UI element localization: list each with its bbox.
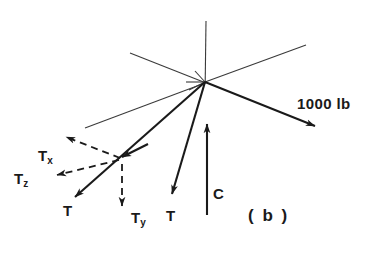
component-tz-subscript: z bbox=[23, 178, 28, 189]
axis-upper-right-line bbox=[205, 45, 306, 82]
component-tz-base: T bbox=[14, 170, 23, 187]
tension-middle-vector bbox=[172, 82, 205, 194]
tension-left-label: T bbox=[63, 203, 72, 218]
force-vectors bbox=[75, 82, 315, 215]
component-tx-vector bbox=[66, 137, 120, 158]
figure-container: 1000 lb Tx Tz T Ty T C ( b ) bbox=[0, 0, 379, 260]
axis-upper-left-line bbox=[130, 53, 206, 83]
vertical-axis-up-line bbox=[205, 21, 206, 83]
component-ty-subscript: y bbox=[140, 217, 146, 228]
component-ty-label: Ty bbox=[131, 210, 146, 225]
tension-middle-label: T bbox=[166, 208, 175, 223]
compression-c-label: C bbox=[213, 186, 224, 201]
component-vectors bbox=[57, 137, 122, 206]
axis-lower-left-line bbox=[85, 83, 205, 128]
force-1000lb-label: 1000 lb bbox=[297, 96, 351, 111]
component-tx-subscript: x bbox=[47, 155, 53, 166]
figure-caption: ( b ) bbox=[248, 207, 289, 224]
component-ty-base: T bbox=[131, 209, 140, 226]
vector-diagram bbox=[0, 0, 379, 260]
tension-left-vector bbox=[75, 82, 205, 197]
component-tx-base: T bbox=[38, 147, 47, 164]
component-tz-label: Tz bbox=[14, 171, 28, 186]
component-tx-label: Tx bbox=[38, 148, 53, 163]
tension-left-mid-arrowhead bbox=[122, 144, 148, 157]
